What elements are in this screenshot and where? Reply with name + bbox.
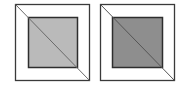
left-panel <box>16 5 90 81</box>
diagram-canvas <box>0 0 179 85</box>
right-panel <box>101 5 175 81</box>
